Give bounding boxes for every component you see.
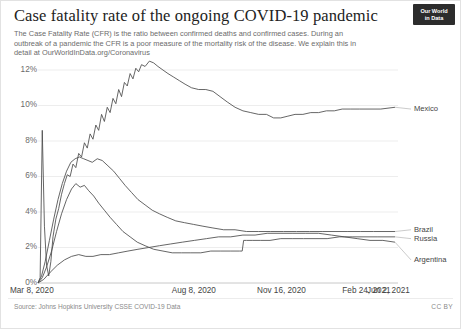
x-axis-tick-label: Aug 8, 2020	[172, 286, 216, 295]
y-axis-tick-label: 10%	[11, 100, 37, 109]
line-chart-canvas	[0, 0, 461, 329]
series-label-argentina[interactable]: Argentina	[414, 255, 447, 264]
series-label-russia[interactable]: Russia	[414, 234, 437, 243]
source-note: Source: Johns Hopkins University CSSE CO…	[14, 303, 180, 310]
license-note: CC BY	[431, 303, 453, 310]
series-label-brazil[interactable]: Brazil	[414, 225, 433, 234]
leader-line	[395, 230, 411, 232]
series-line-argentina	[38, 233, 395, 283]
y-axis-tick-label: 6%	[11, 171, 37, 180]
y-axis-tick-label: 2%	[11, 242, 37, 251]
series-line-brazil	[38, 157, 395, 283]
y-axis-tick-label: 12%	[11, 65, 37, 74]
series-line-mexico	[38, 61, 395, 283]
y-axis-tick-label: 8%	[11, 136, 37, 145]
series-lines	[38, 61, 395, 283]
leader-line	[395, 107, 411, 109]
series-label-mexico[interactable]: Mexico	[414, 104, 438, 113]
leader-line	[395, 237, 411, 239]
leader-line	[395, 242, 411, 260]
y-axis-tick-label: 4%	[11, 207, 37, 216]
x-axis-tick-label: Jun 2, 2021	[367, 286, 410, 295]
label-leader-lines	[395, 107, 411, 260]
x-axis-tick-label: Nov 16, 2020	[257, 286, 306, 295]
x-axis-tick-label: Mar 8, 2020	[10, 286, 54, 295]
footer-divider	[8, 298, 453, 299]
series-line-russia	[38, 184, 395, 283]
